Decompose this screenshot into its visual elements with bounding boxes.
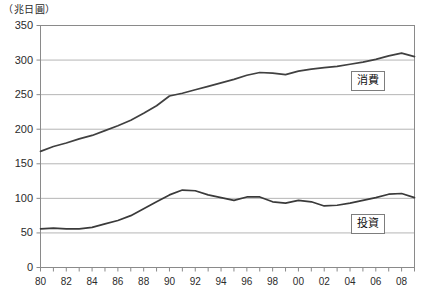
x-tick-label: 96 bbox=[236, 277, 258, 287]
chart-plot-area bbox=[0, 0, 433, 298]
y-tick-label: 200 bbox=[3, 124, 33, 135]
x-tick-label: 92 bbox=[184, 277, 206, 287]
y-tick-label: 250 bbox=[3, 89, 33, 100]
y-tick-label: 150 bbox=[3, 158, 33, 169]
y-tick-label: 300 bbox=[3, 55, 33, 66]
x-tick-label: 88 bbox=[133, 277, 155, 287]
x-tick-label: 86 bbox=[107, 277, 129, 287]
x-tick-label: 00 bbox=[287, 277, 309, 287]
y-tick-label: 50 bbox=[3, 227, 33, 238]
x-tick-label: 98 bbox=[262, 277, 284, 287]
y-tick-label: 100 bbox=[3, 193, 33, 204]
y-axis-ticks bbox=[37, 26, 41, 268]
x-tick-label: 82 bbox=[55, 277, 77, 287]
x-tick-label: 80 bbox=[30, 277, 52, 287]
legend-label-consumption: 消費 bbox=[351, 71, 385, 91]
x-tick-label: 08 bbox=[391, 277, 413, 287]
legend-label-investment: 投資 bbox=[351, 214, 385, 234]
y-tick-label: 0 bbox=[3, 262, 33, 273]
y-tick-label: 350 bbox=[3, 20, 33, 31]
x-tick-label: 06 bbox=[365, 277, 387, 287]
line-chart: （兆日圓） 050100150200250300350 808284868890… bbox=[0, 0, 433, 298]
x-axis-ticks bbox=[41, 268, 415, 272]
x-tick-label: 04 bbox=[339, 277, 361, 287]
x-tick-label: 02 bbox=[313, 277, 335, 287]
x-tick-label: 84 bbox=[81, 277, 103, 287]
x-tick-label: 90 bbox=[158, 277, 180, 287]
series-line-consumption bbox=[41, 53, 415, 151]
x-tick-label: 94 bbox=[210, 277, 232, 287]
